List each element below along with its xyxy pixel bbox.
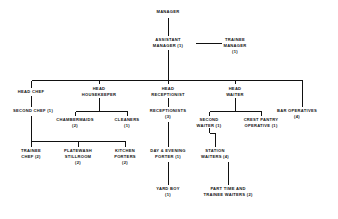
node-head-waiter: HEAD WAITER: [226, 86, 244, 98]
node-kitchen-porters: KITCHEN PORTERS (2): [114, 148, 136, 165]
node-second-chef: SECOND CHEF (1): [13, 108, 53, 114]
node-platewash-stillroom: PLATEWASH STILLROOM (2): [64, 148, 92, 165]
node-receptionists: RECEPTIONISTS (3): [150, 108, 187, 120]
node-bar-operatives: BAR OPERATIVES (4): [277, 108, 318, 120]
node-part-time-trainee-waiters: PART TIME AND TRAINEE WAITERS (2): [203, 186, 252, 198]
node-head-receptionist: HEAD RECEPTIONIST: [151, 86, 185, 98]
node-day-evening-porter: DAY & EVENING PORTER (1): [150, 148, 186, 160]
org-chart: MANAGER ASSISTANT MANAGER (1) TRAINEE MA…: [0, 0, 338, 219]
node-head-housekeeper: HEAD HOUSEKEEPER: [82, 86, 116, 98]
node-assistant-manager: ASSISTANT MANAGER (1): [153, 37, 183, 49]
node-cleaners: CLEANERS (1): [115, 117, 140, 129]
node-second-waiter: SECOND WAITER (1): [197, 117, 222, 129]
node-trainee-manager: TRAINEE MANAGER (1): [223, 37, 246, 54]
node-manager: MANAGER: [156, 9, 179, 15]
node-yard-boy: YARD BOY (1): [156, 186, 179, 198]
node-head-chef: HEAD CHEF: [18, 89, 44, 95]
node-crest-pantry-operative: CREST PANTRY OPERATIVE (1): [244, 117, 279, 129]
node-trainee-chef: TRAINEE CHEF (2): [21, 148, 41, 160]
node-station-waiters: STATION WAITERS (4): [201, 148, 229, 160]
node-chambermaids: CHAMBERMAIDS (2): [56, 117, 93, 129]
